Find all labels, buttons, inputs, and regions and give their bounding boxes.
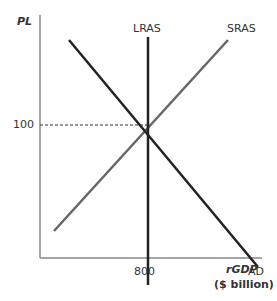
y-axis-label: PL [17,15,32,28]
ad-curve [69,40,258,267]
x-axis-unit-label: ($ billion) [214,278,274,291]
x-tick-label: 800 [134,265,155,278]
y-tick-label: 100 [13,118,34,131]
lras-label: LRAS [133,22,161,35]
sras-curve [54,40,228,231]
ad-as-diagram [0,0,277,301]
sras-label: SRAS [227,22,256,35]
x-axis-label: rGDP [226,263,258,276]
